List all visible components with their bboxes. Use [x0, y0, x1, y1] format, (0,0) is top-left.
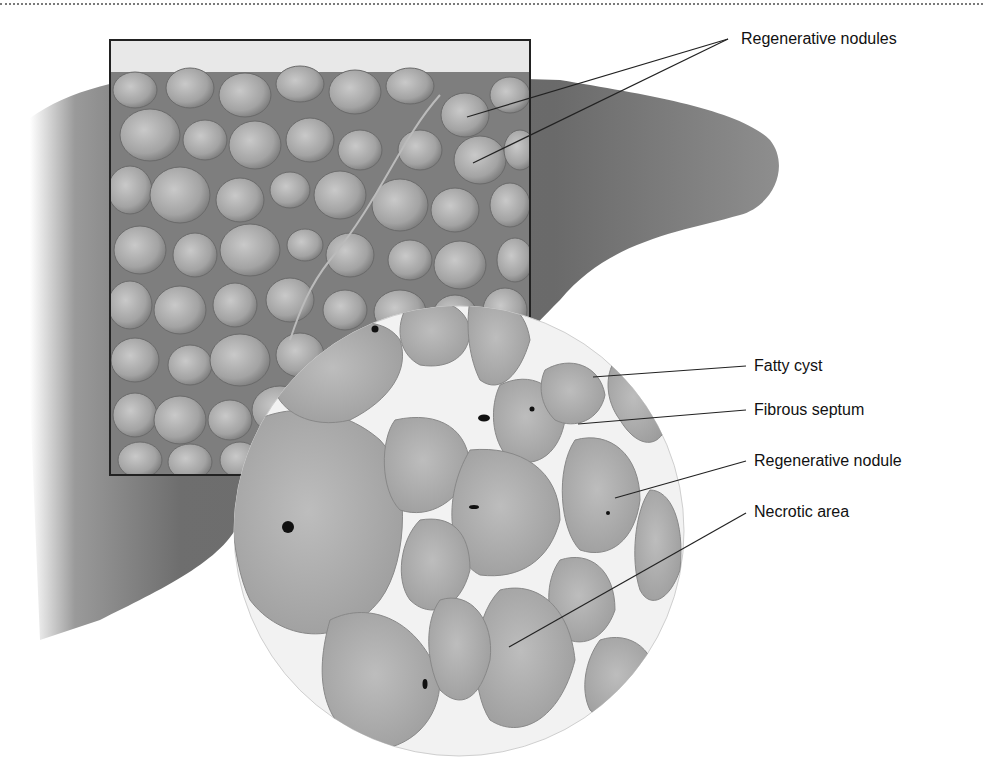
label-fibrous-septum: Fibrous septum — [754, 401, 864, 419]
label-regenerative-nodule: Regenerative nodule — [754, 452, 902, 470]
label-fatty-cyst: Fatty cyst — [754, 357, 822, 375]
liver-illustration — [0, 0, 983, 767]
label-regenerative-nodules: Regenerative nodules — [741, 30, 897, 48]
label-necrotic-area: Necrotic area — [754, 503, 849, 521]
